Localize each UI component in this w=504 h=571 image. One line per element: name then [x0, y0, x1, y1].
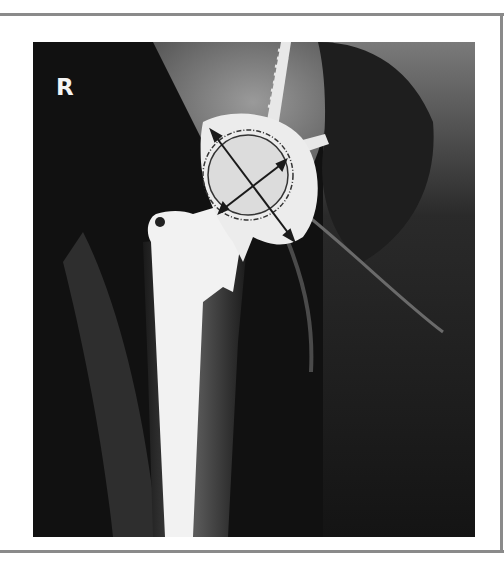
- side-marker: R: [56, 74, 74, 100]
- xray-drawing: [33, 42, 475, 537]
- femoral-head: [208, 135, 288, 215]
- xray-image: R: [33, 42, 475, 537]
- frame-top-line: [0, 13, 504, 16]
- stem-hole: [155, 217, 165, 227]
- frame-right-line: [500, 13, 503, 553]
- thigh-soft-tissue: [63, 232, 158, 537]
- frame-bottom-line: [0, 550, 504, 553]
- ischium-line: [288, 242, 311, 372]
